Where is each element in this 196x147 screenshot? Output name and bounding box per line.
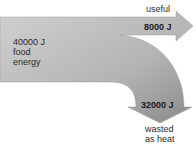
useful-label: useful [146,4,170,14]
wasted-value: 32000 J [141,100,174,110]
wasted-label-line1: wasted [145,124,174,134]
input-label-line2: energy [13,57,41,67]
useful-value: 8000 J [144,22,172,32]
input-label-line1: food [13,47,31,57]
wasted-label-line2: as heat [145,134,175,144]
input-value: 40000 J [13,37,45,47]
